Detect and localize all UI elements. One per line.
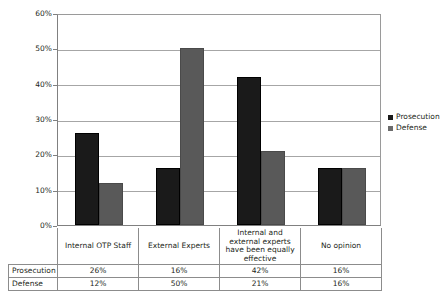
- bar-prosecution-2: [237, 77, 261, 225]
- chart-legend: Prosecution Defense: [388, 112, 440, 134]
- plot-area: [57, 14, 381, 226]
- y-axis-tick-mark: [53, 191, 57, 192]
- table-row: Prosecution26%16%42%16%: [9, 265, 382, 278]
- table-cell: 12%: [58, 278, 139, 291]
- bar-prosecution-0: [75, 133, 99, 225]
- table-corner-cell: [9, 228, 58, 265]
- gridline: [58, 85, 380, 86]
- table-row: Defense12%50%21%16%: [9, 278, 382, 291]
- bar-defense-2: [261, 151, 285, 225]
- bar-prosecution-1: [156, 168, 180, 225]
- table-row-header: Prosecution: [9, 265, 58, 278]
- table-row-header: Defense: [9, 278, 58, 291]
- table-cell: 42%: [220, 265, 301, 278]
- table-column-header: No opinion: [301, 228, 382, 265]
- y-axis-tick-mark: [53, 155, 57, 156]
- gridline: [58, 50, 380, 51]
- legend-item-defense: Defense: [388, 123, 440, 133]
- y-axis-tick-mark: [53, 226, 57, 227]
- y-axis-tick-label: 40%: [35, 81, 52, 89]
- table-header-row: Internal OTP StaffExternal ExpertsIntern…: [9, 228, 382, 265]
- table-body: Internal OTP StaffExternal ExpertsIntern…: [9, 228, 382, 291]
- table-cell: 16%: [301, 265, 382, 278]
- bar-prosecution-3: [318, 168, 342, 225]
- bar-defense-0: [99, 183, 123, 225]
- y-axis-tick-mark: [53, 14, 57, 15]
- bar-defense-1: [180, 48, 204, 225]
- y-axis-tick-label: 20%: [35, 151, 52, 159]
- table-column-header: External Experts: [139, 228, 220, 265]
- table-column-header: Internal OTP Staff: [58, 228, 139, 265]
- y-axis-tick-mark: [53, 120, 57, 121]
- table-cell: 26%: [58, 265, 139, 278]
- gridline: [58, 121, 380, 122]
- y-axis-tick-mark: [53, 85, 57, 86]
- legend-item-prosecution: Prosecution: [388, 112, 440, 122]
- y-axis-tick-label: 10%: [35, 187, 52, 195]
- y-axis-tick-label: 30%: [35, 116, 52, 124]
- legend-label-prosecution: Prosecution: [396, 112, 440, 122]
- y-axis: 0%10%20%30%40%50%60%: [0, 0, 52, 235]
- y-axis-tick-label: 50%: [35, 45, 52, 53]
- legend-label-defense: Defense: [396, 123, 427, 133]
- table-column-header: Internal and external experts have been …: [220, 228, 301, 265]
- table-cell: 50%: [139, 278, 220, 291]
- table-cell: 21%: [220, 278, 301, 291]
- y-axis-tick-mark: [53, 49, 57, 50]
- legend-swatch-prosecution-icon: [388, 115, 393, 120]
- bar-chart: 0%10%20%30%40%50%60% Prosecution Defense: [0, 0, 448, 235]
- y-axis-tick-label: 60%: [35, 10, 52, 18]
- data-table: Internal OTP StaffExternal ExpertsIntern…: [8, 228, 382, 291]
- table-cell: 16%: [301, 278, 382, 291]
- table-cell: 16%: [139, 265, 220, 278]
- bar-defense-3: [342, 168, 366, 225]
- gridline: [58, 156, 380, 157]
- legend-swatch-defense-icon: [388, 126, 393, 131]
